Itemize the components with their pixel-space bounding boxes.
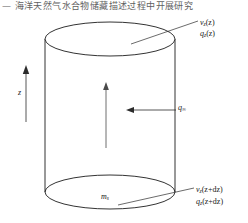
cylinder-bottom-face xyxy=(45,175,175,209)
label-lateral-flux: q∞ xyxy=(178,103,186,112)
cylinder-body xyxy=(45,39,175,192)
label-velocity-bottom: vz(z+dz) xyxy=(196,185,223,194)
label-mass-source-subscript: s xyxy=(107,195,109,201)
label-velocity-bottom-argument: (z+dz) xyxy=(202,185,223,194)
label-z-axis: z xyxy=(18,88,21,97)
label-flux-top: qz(z) xyxy=(200,29,215,38)
internal-z-arrow xyxy=(103,82,109,148)
label-velocity-top: vz(z) xyxy=(200,18,215,27)
label-flux-bottom: qz(z+dz) xyxy=(196,197,223,206)
lateral-flux-arrow xyxy=(126,107,176,113)
label-mass-source: ms xyxy=(101,192,109,201)
label-flux-bottom-argument: (z+dz) xyxy=(202,197,223,206)
label-lateral-flux-subscript: ∞ xyxy=(182,106,186,112)
z-axis-arrow xyxy=(23,65,29,122)
label-flux-top-argument: (z) xyxy=(206,29,215,38)
cylinder-top-face xyxy=(45,22,175,56)
bottom-label-leader-line xyxy=(118,188,194,205)
label-velocity-top-argument: (z) xyxy=(206,18,215,27)
